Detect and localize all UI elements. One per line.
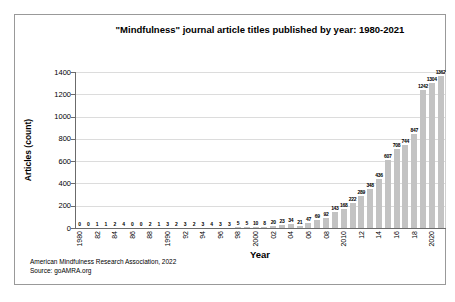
bar-2008: [323, 218, 329, 228]
y-tick-label: 400: [28, 179, 71, 188]
x-tick-label: 02: [270, 231, 277, 239]
bar-2018: [411, 134, 417, 228]
y-tick-mark: [71, 72, 75, 73]
bar-2009: [332, 212, 338, 228]
bar-2011: [350, 203, 356, 228]
x-tick-label: 14: [375, 231, 382, 239]
x-tick-label: 86: [129, 231, 136, 239]
bar-value-label: 1362: [431, 69, 451, 75]
attribution-line-1: American Mindfulness Research Associatio…: [30, 258, 176, 267]
y-tick-mark: [71, 161, 75, 162]
y-axis-title: Articles (count): [23, 119, 33, 181]
bar-2020: [429, 83, 435, 228]
x-tick-label: 98: [234, 231, 241, 239]
figure-page: "Mindfulness" journal article titles pub…: [0, 0, 455, 302]
x-tick-label: 2010: [340, 231, 347, 247]
gridline: [75, 72, 445, 73]
attribution-line-2: Source: goAMRA.org: [30, 267, 176, 276]
y-tick-label: 1200: [28, 90, 71, 99]
y-tick-label: 600: [28, 157, 71, 166]
x-tick-label: 1990: [164, 231, 171, 247]
y-tick-label: 1400: [28, 68, 71, 77]
x-tick-label: 04: [287, 231, 294, 239]
y-tick-label: 0: [28, 224, 71, 233]
attribution: American Mindfulness Research Associatio…: [30, 258, 176, 275]
y-tick-mark: [71, 206, 75, 207]
y-tick-label: 1000: [28, 112, 71, 121]
bar-2017: [402, 145, 408, 228]
x-tick-label: 94: [199, 231, 206, 239]
bar-2021: [438, 76, 444, 228]
bar-2012: [358, 196, 364, 228]
y-axis-line: [75, 72, 76, 229]
gridline: [75, 94, 445, 95]
bar-2019: [420, 90, 426, 228]
x-tick-label: 18: [411, 231, 418, 239]
x-tick-label: 92: [182, 231, 189, 239]
bar-2010: [341, 209, 347, 228]
y-tick-mark: [71, 117, 75, 118]
x-axis-line: [75, 228, 446, 229]
x-tick-label: 08: [323, 231, 330, 239]
x-tick-label: 1980: [76, 231, 83, 247]
x-tick-label: 88: [146, 231, 153, 239]
x-tick-label: 06: [305, 231, 312, 239]
bar-2007: [314, 220, 320, 228]
y-tick-mark: [71, 139, 75, 140]
chart-title: "Mindfulness" journal article titles pub…: [75, 24, 445, 35]
plot-right-border: [445, 72, 446, 228]
y-tick-mark: [71, 94, 75, 95]
bar-2013: [367, 189, 373, 228]
x-tick-label: 2020: [428, 231, 435, 247]
y-tick-label: 800: [28, 134, 71, 143]
y-tick-label: 200: [28, 201, 71, 210]
plot-area: 0011240021323234335510820233421476992143…: [75, 72, 445, 228]
gridline: [75, 117, 445, 118]
y-tick-mark: [71, 228, 75, 229]
x-tick-label: 16: [393, 231, 400, 239]
y-tick-mark: [71, 183, 75, 184]
bar-2015: [385, 160, 391, 228]
bar-2016: [394, 149, 400, 228]
bar-2014: [376, 179, 382, 228]
gridline: [75, 139, 445, 140]
x-tick-label: 84: [111, 231, 118, 239]
x-tick-label: 2000: [252, 231, 259, 247]
x-tick-label: 82: [94, 231, 101, 239]
x-tick-label: 96: [217, 231, 224, 239]
x-tick-label: 12: [358, 231, 365, 239]
